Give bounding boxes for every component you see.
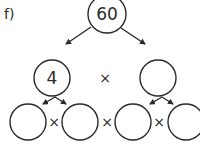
middle-left-value: 4: [47, 68, 58, 88]
root-node: 60: [88, 0, 126, 33]
bottom-node-4[interactable]: [168, 104, 200, 140]
bottom-node-1[interactable]: [10, 104, 46, 140]
middle-node-left[interactable]: 4: [34, 60, 70, 96]
root-value: 60: [96, 4, 118, 24]
factor-tree-diagram: f) 60 4 × × × ×: [0, 0, 200, 144]
middle-node-right[interactable]: [140, 60, 176, 96]
arrow-right-icon: [121, 28, 145, 44]
arrow-left-icon: [66, 27, 91, 44]
multiply-operator: ×: [153, 114, 165, 130]
bottom-node-2[interactable]: [62, 104, 98, 140]
multiply-operator: ×: [101, 114, 113, 130]
multiply-operator: ×: [99, 70, 111, 86]
fork-arrow-left-icon: [43, 97, 66, 104]
bottom-node-3[interactable]: [115, 104, 151, 140]
multiply-operator: ×: [48, 114, 60, 130]
question-label: f): [4, 6, 14, 22]
fork-arrow-right-icon: [150, 97, 173, 104]
